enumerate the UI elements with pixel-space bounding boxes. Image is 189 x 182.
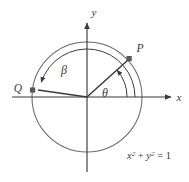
- point-p-marker: [127, 56, 132, 61]
- point-q-marker: [30, 87, 35, 92]
- x-axis-label: x: [176, 91, 182, 103]
- equation-equals-one: = 1: [155, 150, 171, 161]
- unit-circle-diagram: P Q θ β x y x2 + y2 = 1: [0, 0, 189, 182]
- equation-plus: +: [135, 150, 146, 161]
- point-q-label: Q: [14, 82, 23, 94]
- y-axis-label: y: [91, 6, 97, 18]
- beta-label: β: [60, 63, 67, 77]
- point-p-label: P: [135, 42, 143, 54]
- theta-label: θ: [102, 86, 108, 100]
- figure-container: P Q θ β x y x2 + y2 = 1: [0, 0, 189, 182]
